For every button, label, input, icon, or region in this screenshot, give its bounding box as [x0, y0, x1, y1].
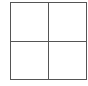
- grid-cell-top-left: [11, 3, 48, 41]
- two-by-two-grid: [10, 2, 87, 80]
- horizontal-divider: [11, 41, 86, 42]
- grid-cell-bottom-right: [49, 42, 86, 79]
- grid-cell-top-right: [49, 3, 86, 41]
- grid-cell-bottom-left: [11, 42, 48, 79]
